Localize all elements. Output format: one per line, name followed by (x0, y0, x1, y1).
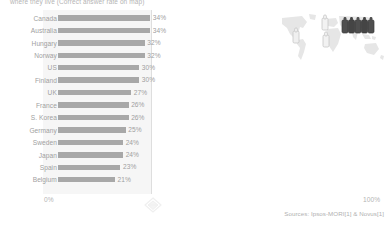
bar-value-label: 34% (153, 14, 166, 21)
bar-track: 24% (58, 136, 392, 148)
bar (58, 177, 115, 182)
table-row: Japan 24% (0, 149, 392, 161)
x-axis-tick-min: 0% (44, 196, 54, 203)
table-row: Finland 30% (0, 74, 392, 86)
bar-category-label: S. Korea (0, 114, 58, 121)
x-axis-tick-max: 100% (363, 196, 380, 203)
bar-category-label: Sweden (0, 139, 58, 146)
bar (58, 15, 151, 20)
bar-category-label: Hungary (0, 40, 58, 47)
chart-source-note: Sources: Ipsos-MORI[1] & Novus[1] (284, 210, 384, 217)
table-row: S. Korea 26% (0, 112, 392, 124)
bar-value-label: 24% (126, 139, 139, 146)
bar-value-label: 30% (142, 76, 155, 83)
bar-category-label: Belgium (0, 176, 58, 183)
bar-value-label: 26% (131, 114, 144, 121)
bar-value-label: 30% (142, 64, 155, 71)
table-row: Belgium 21% (0, 174, 392, 186)
bar (58, 77, 140, 82)
bar-value-label: 23% (123, 163, 136, 170)
bar-category-label: Australia (0, 27, 58, 34)
bar-track: 27% (58, 87, 392, 99)
bar (58, 102, 129, 107)
chart-title: where they live (Correct answer rate on … (10, 0, 144, 5)
bar (58, 40, 145, 45)
bar-category-label: France (0, 102, 58, 109)
table-row: UK 27% (0, 87, 392, 99)
bar-track: 30% (58, 74, 392, 86)
bar-category-label: US (0, 64, 58, 71)
bar (58, 165, 121, 170)
bar-value-label: 34% (153, 27, 166, 34)
bar (58, 53, 145, 58)
bar-value-label: 26% (131, 101, 144, 108)
bar-track: 24% (58, 149, 392, 161)
bar-value-label: 25% (128, 126, 141, 133)
table-row: Sweden 24% (0, 136, 392, 148)
bar (58, 115, 129, 120)
world-map-inset (276, 12, 388, 66)
bar-track: 23% (58, 161, 392, 173)
bar (58, 28, 151, 33)
bar-category-label: Germany (0, 127, 58, 134)
bar (58, 152, 123, 157)
bar-track: 21% (58, 174, 392, 186)
bar-category-label: Spain (0, 164, 58, 171)
bar-category-label: UK (0, 89, 58, 96)
x-axis: 0% 100% (0, 196, 392, 208)
bar-track: 26% (58, 112, 392, 124)
bar-value-label: 24% (126, 151, 139, 158)
bar-track: 26% (58, 99, 392, 111)
pin-europe (322, 15, 328, 30)
bar-category-label: Finland (0, 77, 58, 84)
bar-value-label: 32% (147, 52, 160, 59)
diamond-watermark (142, 196, 164, 214)
bar (58, 127, 126, 132)
bar-category-label: Norway (0, 52, 58, 59)
bar (58, 65, 140, 70)
bar-category-label: Japan (0, 152, 58, 159)
bar (58, 90, 132, 95)
table-row: Spain 23% (0, 161, 392, 173)
bar (58, 140, 123, 145)
bar-value-label: 21% (117, 176, 130, 183)
bar-category-label: Canada (0, 15, 58, 22)
bar-value-label: 32% (147, 39, 160, 46)
bar-track: 25% (58, 124, 392, 136)
table-row: France 26% (0, 99, 392, 111)
table-row: Germany 25% (0, 124, 392, 136)
bar-value-label: 27% (134, 89, 147, 96)
